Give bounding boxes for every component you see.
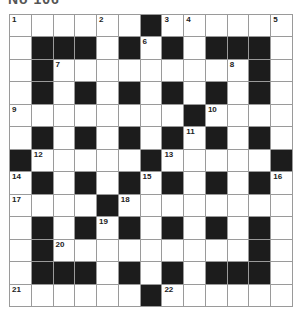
answer-cell[interactable] [54,172,76,194]
answer-cell[interactable] [271,240,293,262]
answer-cell[interactable] [271,127,293,149]
answer-cell[interactable] [54,82,76,104]
answer-cell[interactable]: 3 [162,15,184,37]
answer-cell[interactable] [184,240,206,262]
answer-cell[interactable] [271,195,293,217]
answer-cell[interactable] [249,15,271,37]
answer-cell[interactable] [184,82,206,104]
answer-cell[interactable]: 11 [184,127,206,149]
answer-cell[interactable] [119,15,141,37]
answer-cell[interactable] [54,127,76,149]
answer-cell[interactable] [97,82,119,104]
answer-cell[interactable] [75,150,97,172]
answer-cell[interactable] [249,150,271,172]
answer-cell[interactable] [228,172,250,194]
answer-cell[interactable]: 17 [10,195,32,217]
answer-cell[interactable] [75,60,97,82]
answer-cell[interactable] [97,240,119,262]
answer-cell[interactable] [75,15,97,37]
answer-cell[interactable] [228,195,250,217]
answer-cell[interactable] [10,60,32,82]
answer-cell[interactable]: 19 [97,217,119,239]
answer-cell[interactable] [184,262,206,284]
answer-cell[interactable] [75,240,97,262]
answer-cell[interactable] [206,60,228,82]
answer-cell[interactable] [206,15,228,37]
answer-cell[interactable] [271,285,293,307]
answer-cell[interactable]: 9 [10,105,32,127]
answer-cell[interactable] [32,15,54,37]
answer-cell[interactable]: 4 [184,15,206,37]
answer-cell[interactable] [10,262,32,284]
answer-cell[interactable] [228,240,250,262]
answer-cell[interactable] [97,172,119,194]
answer-cell[interactable] [119,240,141,262]
answer-cell[interactable] [271,60,293,82]
answer-cell[interactable] [206,285,228,307]
answer-cell[interactable] [228,285,250,307]
answer-cell[interactable] [32,285,54,307]
answer-cell[interactable] [228,127,250,149]
answer-cell[interactable] [249,285,271,307]
answer-cell[interactable] [184,195,206,217]
answer-cell[interactable] [75,285,97,307]
answer-cell[interactable] [162,240,184,262]
answer-cell[interactable] [206,240,228,262]
answer-cell[interactable] [206,195,228,217]
answer-cell[interactable] [10,240,32,262]
answer-cell[interactable] [141,127,163,149]
answer-cell[interactable] [141,217,163,239]
answer-cell[interactable]: 2 [97,15,119,37]
answer-cell[interactable]: 21 [10,285,32,307]
answer-cell[interactable] [97,60,119,82]
answer-cell[interactable] [184,37,206,59]
answer-cell[interactable] [228,217,250,239]
answer-cell[interactable] [162,60,184,82]
answer-cell[interactable] [119,150,141,172]
answer-cell[interactable] [141,105,163,127]
answer-cell[interactable] [206,150,228,172]
answer-cell[interactable] [249,195,271,217]
answer-cell[interactable]: 6 [141,37,163,59]
answer-cell[interactable] [228,105,250,127]
answer-cell[interactable] [162,195,184,217]
answer-cell[interactable] [141,240,163,262]
answer-cell[interactable] [54,15,76,37]
answer-cell[interactable] [97,262,119,284]
answer-cell[interactable] [184,285,206,307]
answer-cell[interactable] [271,82,293,104]
answer-cell[interactable] [228,82,250,104]
answer-cell[interactable] [141,82,163,104]
answer-cell[interactable] [10,217,32,239]
answer-cell[interactable]: 7 [54,60,76,82]
answer-cell[interactable] [141,195,163,217]
answer-cell[interactable] [54,217,76,239]
answer-cell[interactable] [249,105,271,127]
answer-cell[interactable] [141,262,163,284]
answer-cell[interactable] [228,15,250,37]
answer-cell[interactable] [119,285,141,307]
answer-cell[interactable]: 13 [162,150,184,172]
answer-cell[interactable] [271,105,293,127]
answer-cell[interactable]: 14 [10,172,32,194]
answer-cell[interactable]: 8 [228,60,250,82]
answer-cell[interactable] [184,172,206,194]
answer-cell[interactable] [97,150,119,172]
answer-cell[interactable] [54,285,76,307]
answer-cell[interactable] [184,60,206,82]
answer-cell[interactable] [10,37,32,59]
answer-cell[interactable] [54,195,76,217]
answer-cell[interactable] [271,217,293,239]
answer-cell[interactable] [32,105,54,127]
answer-cell[interactable] [75,105,97,127]
answer-cell[interactable] [10,82,32,104]
answer-cell[interactable] [10,127,32,149]
answer-cell[interactable] [97,285,119,307]
answer-cell[interactable]: 10 [206,105,228,127]
answer-cell[interactable]: 1 [10,15,32,37]
answer-cell[interactable] [141,60,163,82]
answer-cell[interactable] [184,150,206,172]
answer-cell[interactable] [162,105,184,127]
answer-cell[interactable] [54,105,76,127]
answer-cell[interactable]: 22 [162,285,184,307]
